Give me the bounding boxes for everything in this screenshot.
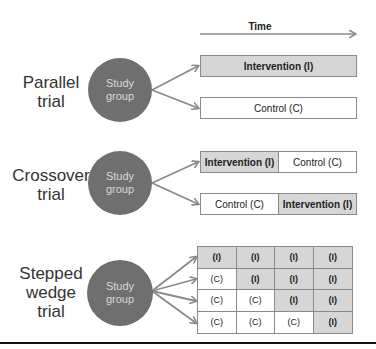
grid-cell: (C) (198, 290, 237, 312)
bottom-divider (0, 342, 376, 344)
crossover-arm-2-period-1: Control (C) (201, 194, 278, 214)
grid-cell: (I) (275, 247, 314, 269)
parallel-trial-title: Parallel trial (1, 73, 101, 111)
stepped-wedge-trial-title: Stepped wedge trial (1, 264, 101, 321)
grid-cell: (C) (275, 312, 314, 334)
grid-cell: (I) (275, 269, 314, 291)
grid-cell: (C) (237, 312, 276, 334)
study-group-circle-crossover: Studygroup (88, 151, 152, 215)
grid-cell: (I) (314, 290, 353, 312)
crossover-arm-1-period-2: Control (C) (278, 152, 356, 172)
parallel-intervention-arm: Intervention (I) (200, 55, 357, 77)
grid-cell: (I) (314, 269, 353, 291)
study-group-circle-stepped-wedge: Studygroup (87, 260, 153, 326)
grid-cell: (C) (237, 290, 276, 312)
crossover-arm-2: Control (C) Intervention (I) (200, 193, 357, 215)
crossover-arm-1-period-1: Intervention (I) (201, 152, 278, 172)
time-axis-label: Time (240, 21, 280, 32)
grid-cell: (C) (198, 269, 237, 291)
grid-cell: (I) (237, 247, 276, 269)
grid-cell: (I) (237, 269, 276, 291)
parallel-control-arm: Control (C) (200, 97, 357, 119)
crossover-trial-title: Crossover trial (1, 166, 101, 204)
grid-cell: (I) (275, 290, 314, 312)
crossover-arm-2-period-2: Intervention (I) (278, 194, 356, 214)
grid-cell: (I) (198, 247, 237, 269)
crossover-arm-1: Intervention (I) Control (C) (200, 151, 357, 173)
stepped-wedge-grid: (I) (I) (I) (I) (C) (I) (I) (I) (C) (C) … (197, 246, 353, 334)
study-group-circle-parallel: Studygroup (88, 58, 152, 122)
grid-cell: (C) (198, 312, 237, 334)
grid-cell: (I) (314, 312, 353, 334)
grid-cell: (I) (314, 247, 353, 269)
